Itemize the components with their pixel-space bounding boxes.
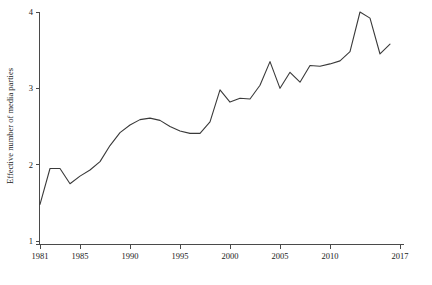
x-tick-label: 1995 bbox=[172, 251, 189, 261]
x-tick-label: 2017 bbox=[392, 251, 409, 261]
x-axis-ticks bbox=[40, 245, 400, 250]
y-tick-label: 1 bbox=[29, 236, 33, 246]
line-chart: 1234 19811985199019952000200520102017 Ef… bbox=[0, 0, 432, 285]
x-tick-label: 1990 bbox=[122, 251, 139, 261]
x-tick-label: 2010 bbox=[322, 251, 339, 261]
x-tick-label: 2005 bbox=[272, 251, 289, 261]
x-tick-label: 1981 bbox=[32, 251, 49, 261]
chart-figure: 1234 19811985199019952000200520102017 Ef… bbox=[0, 0, 432, 285]
data-series-line bbox=[40, 12, 390, 204]
x-tick-label: 1985 bbox=[72, 251, 89, 261]
x-tick-label: 2000 bbox=[222, 251, 239, 261]
y-axis-tick-labels: 1234 bbox=[29, 7, 34, 246]
y-tick-label: 4 bbox=[29, 7, 34, 17]
y-tick-label: 3 bbox=[29, 83, 33, 93]
x-axis-tick-labels: 19811985199019952000200520102017 bbox=[32, 251, 409, 261]
y-axis-title: Effective number of media parties bbox=[5, 68, 15, 184]
y-tick-label: 2 bbox=[29, 160, 33, 170]
y-axis-ticks bbox=[36, 12, 40, 241]
